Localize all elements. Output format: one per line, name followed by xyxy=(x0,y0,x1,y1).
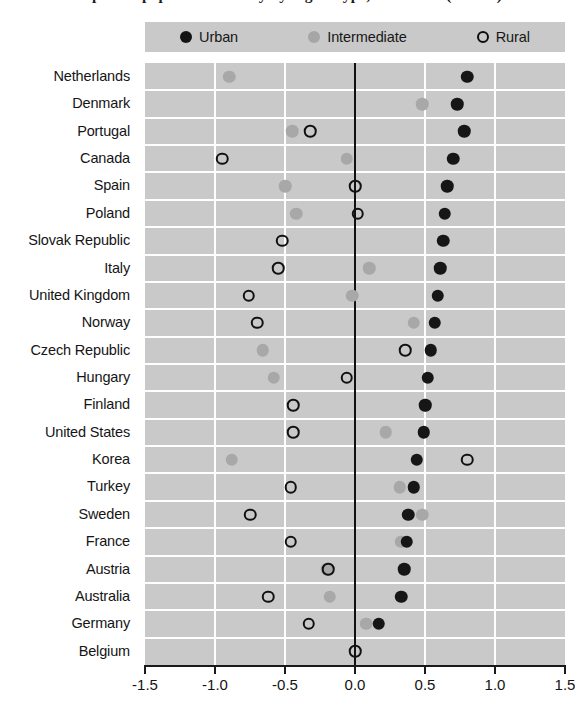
axis-tick xyxy=(424,665,426,674)
category-label: Belgium xyxy=(79,638,130,665)
data-point-urban xyxy=(419,399,432,412)
data-point-urban xyxy=(395,590,408,603)
category-label: Austria xyxy=(86,556,130,583)
legend-label-urban: Urban xyxy=(199,29,238,45)
legend-label-intermediate: Intermediate xyxy=(327,29,406,45)
filled-gray-circle-icon xyxy=(308,31,320,43)
data-point-urban xyxy=(451,98,464,111)
axis-tick-label: -1.5 xyxy=(132,676,158,693)
axis-tick-label: 1.5 xyxy=(555,676,575,693)
data-point-rural xyxy=(272,262,285,275)
data-point-urban xyxy=(424,344,437,357)
category-label: Italy xyxy=(104,255,130,282)
category-label: Norway xyxy=(82,309,130,336)
data-point-urban xyxy=(373,618,386,631)
axis-tick-label: -1.0 xyxy=(202,676,228,693)
gridline xyxy=(494,63,496,665)
data-point-rural xyxy=(284,536,297,549)
chart-title-clipped: Impact of population density by region t… xyxy=(0,0,575,12)
axis-tick-label: -0.5 xyxy=(272,676,298,693)
data-point-rural xyxy=(276,235,289,248)
data-point-rural xyxy=(461,454,474,467)
gridline xyxy=(284,63,286,665)
data-point-rural xyxy=(242,289,255,302)
category-label: United Kingdom xyxy=(29,282,130,309)
data-point-urban xyxy=(402,508,415,521)
data-point-urban xyxy=(401,536,414,549)
data-point-rural xyxy=(304,125,317,138)
axis-tick xyxy=(214,665,216,674)
data-point-rural xyxy=(322,563,335,576)
data-point-rural xyxy=(262,590,275,603)
category-label: Canada xyxy=(80,145,130,172)
data-point-intermediate xyxy=(408,317,421,330)
data-point-intermediate xyxy=(324,590,337,603)
data-point-urban xyxy=(417,426,430,439)
data-point-intermediate xyxy=(268,371,281,384)
data-point-rural xyxy=(340,371,353,384)
page-title: Impact of population density by region t… xyxy=(73,0,502,4)
gridline xyxy=(424,63,426,665)
data-point-rural xyxy=(287,426,300,439)
category-label: Portugal xyxy=(77,118,130,145)
category-label: Poland xyxy=(86,200,130,227)
data-point-intermediate xyxy=(416,508,429,521)
data-point-intermediate xyxy=(226,454,239,467)
data-point-urban xyxy=(398,563,411,576)
axis-tick-label: 0.5 xyxy=(415,676,436,693)
axis-tick xyxy=(494,665,496,674)
data-point-rural xyxy=(349,180,362,193)
data-point-rural xyxy=(349,645,362,658)
category-axis-labels: NetherlandsDenmarkPortugalCanadaSpainPol… xyxy=(0,63,138,665)
axis-tick xyxy=(144,665,146,674)
category-label: Turkey xyxy=(87,473,130,500)
legend-item-intermediate: Intermediate xyxy=(308,29,406,45)
legend-label-rural: Rural xyxy=(496,29,530,45)
axis-tick xyxy=(354,665,356,674)
category-label: Hungary xyxy=(76,364,130,391)
data-point-rural xyxy=(244,508,257,521)
filled-black-circle-icon xyxy=(180,31,192,43)
data-point-urban xyxy=(408,481,421,494)
data-point-rural xyxy=(399,344,412,357)
legend-item-urban: Urban xyxy=(180,29,238,45)
category-label: Slovak Republic xyxy=(28,227,130,254)
category-label: Netherlands xyxy=(53,63,130,90)
data-point-urban xyxy=(437,235,450,248)
gridline xyxy=(214,63,216,665)
axis-tick-label: 0.0 xyxy=(345,676,366,693)
category-label: Australia xyxy=(75,583,130,610)
data-point-intermediate xyxy=(380,426,393,439)
category-label: Czech Republic xyxy=(31,337,130,364)
data-point-urban xyxy=(429,317,442,330)
data-point-rural xyxy=(284,481,297,494)
data-point-intermediate xyxy=(346,289,359,302)
data-point-intermediate xyxy=(363,262,376,275)
axis-tick xyxy=(564,665,566,674)
category-label: France xyxy=(86,528,130,555)
data-point-rural xyxy=(303,618,316,631)
zero-reference-line xyxy=(354,63,356,665)
data-point-urban xyxy=(438,207,451,220)
data-point-intermediate xyxy=(394,481,407,494)
category-label: Korea xyxy=(92,446,130,473)
data-point-rural xyxy=(216,153,229,166)
data-point-rural xyxy=(287,399,300,412)
data-point-urban xyxy=(434,262,447,275)
data-point-urban xyxy=(441,180,454,193)
data-point-rural xyxy=(352,207,365,220)
data-point-intermediate xyxy=(290,207,303,220)
data-point-intermediate xyxy=(360,618,373,631)
axis-tick-label: 1.0 xyxy=(485,676,506,693)
category-label: Germany xyxy=(71,610,130,637)
category-label: Denmark xyxy=(72,90,130,117)
plot-area xyxy=(145,63,565,665)
data-point-intermediate xyxy=(340,153,353,166)
data-point-intermediate xyxy=(416,98,429,111)
data-point-urban xyxy=(458,125,471,138)
axis-tick xyxy=(284,665,286,674)
chart-page: Impact of population density by region t… xyxy=(0,0,575,714)
data-point-urban xyxy=(410,454,423,467)
chart-legend: Urban Intermediate Rural xyxy=(145,22,565,52)
data-point-urban xyxy=(431,289,444,302)
